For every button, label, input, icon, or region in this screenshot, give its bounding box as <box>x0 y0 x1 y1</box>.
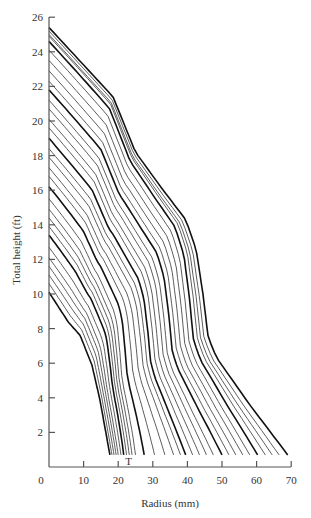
y-tick-label: 8 <box>38 323 44 335</box>
y-tick-label: 10 <box>32 288 44 300</box>
profile-curve <box>49 218 129 455</box>
profile-curve <box>49 149 181 455</box>
taper-profile-chart: 010203040506070 2468101214161820222426 T… <box>0 0 311 518</box>
profile-curve <box>49 187 144 455</box>
profile-curve <box>49 247 121 455</box>
x-tick-label: 70 <box>286 474 298 486</box>
x-tick-label: 40 <box>182 474 194 486</box>
x-tick-label: 10 <box>78 474 90 486</box>
y-tick-label: 12 <box>32 253 43 265</box>
profile-curve <box>49 31 279 455</box>
y-tick-label: 22 <box>32 80 43 92</box>
x-tick-label: 30 <box>147 474 159 486</box>
y-tick-label: 18 <box>32 150 44 162</box>
curves-group <box>49 28 288 455</box>
profile-curve <box>49 36 265 455</box>
profile-curve <box>49 292 110 455</box>
profile-curve <box>49 128 193 455</box>
y-tick-label: 20 <box>32 115 44 127</box>
y-tick-label: 4 <box>38 392 44 404</box>
y-tick-label: 14 <box>32 219 44 231</box>
profile-curve <box>49 235 124 455</box>
y-tick-label: 2 <box>38 426 44 438</box>
y-ticks: 2468101214161820222426 <box>32 11 55 438</box>
y-tick-label: 24 <box>32 46 44 58</box>
y-tick-label: 26 <box>32 11 44 23</box>
profile-curve <box>49 284 112 455</box>
annotation-T: T <box>125 455 132 467</box>
x-tick-label: 0 <box>38 474 44 486</box>
x-axis-title: Radius (mm) <box>141 497 199 510</box>
x-ticks: 010203040506070 <box>38 461 297 486</box>
y-tick-label: 6 <box>38 357 44 369</box>
x-tick-label: 60 <box>251 474 263 486</box>
y-axis-title: Total height (ft) <box>10 215 23 285</box>
x-tick-label: 20 <box>113 474 125 486</box>
y-tick-label: 16 <box>32 184 44 196</box>
profile-curve <box>49 28 288 455</box>
x-tick-label: 50 <box>217 474 229 486</box>
profile-curve <box>49 227 127 455</box>
